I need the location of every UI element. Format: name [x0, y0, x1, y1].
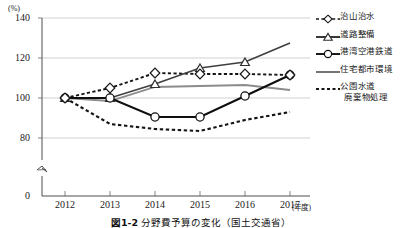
- axis-break-icon: [37, 166, 47, 172]
- figure-caption: 図1-2 分野費予算の変化（国土交通省）: [0, 215, 402, 228]
- x-tick-marks: [65, 191, 290, 196]
- marker-diamond-2017: [285, 70, 295, 80]
- figure-container: (%) 140 120 100 80 0 2012 2013 2014 2015…: [0, 0, 402, 228]
- marker-diamond-2014: [150, 68, 160, 78]
- legend-item-kowan-kuko-tetsudo: 港湾空港鉄道: [316, 47, 402, 65]
- legend-symbol-solid-triangle: [316, 31, 340, 43]
- marker-circle-2015: [196, 113, 204, 121]
- legend-item-chisan-chisui: 治山治水: [316, 12, 402, 30]
- legend-item-koen-suido-haikibutsu: 公園水道 廃棄物処理: [316, 82, 402, 102]
- marker-circle-2016: [241, 92, 249, 100]
- legend-symbol-solid-plain: [316, 66, 340, 78]
- legend-label-koen-suido: 公園水道: [340, 82, 388, 92]
- y-tick-marks: [38, 18, 42, 138]
- marker-circle-2013: [106, 94, 114, 102]
- series-markers-kowan-kuko-tetsudo: [61, 71, 294, 121]
- marker-diamond-2013: [105, 83, 115, 93]
- legend-label-doro-seibi: 道路整備: [340, 30, 375, 40]
- series-line-kowan-kuko-tetsudo: [65, 75, 290, 117]
- chart-legend: 治山治水 道路整備 港湾空港鉄道 住宅都市環境: [316, 12, 402, 102]
- legend-item-jutaku-toshi-kankyo: 住宅都市環境: [316, 65, 402, 83]
- legend-label-kowan-kuko-tetsudo: 港湾空港鉄道: [340, 47, 393, 57]
- gridlines: [42, 18, 310, 138]
- figure-caption-number: 図1-2: [111, 217, 138, 228]
- legend-symbol-dotted-plain: [316, 83, 340, 95]
- series-line-koen-suido-haikibutsu: [65, 98, 290, 131]
- legend-item-doro-seibi: 道路整備: [316, 30, 402, 48]
- legend-label-haikibutsu-shori: 廃棄物処理: [340, 92, 388, 102]
- legend-symbol-solid-circle: [316, 48, 340, 60]
- marker-diamond-2016: [240, 69, 250, 79]
- marker-circle-2014: [151, 113, 159, 121]
- figure-caption-text: 分野費予算の変化（国土交通省）: [141, 217, 291, 228]
- legend-label-chisan-chisui: 治山治水: [340, 12, 375, 22]
- legend-label-jutaku-toshi-kankyo: 住宅都市環境: [340, 65, 393, 75]
- legend-symbol-dotted-diamond: [316, 13, 340, 25]
